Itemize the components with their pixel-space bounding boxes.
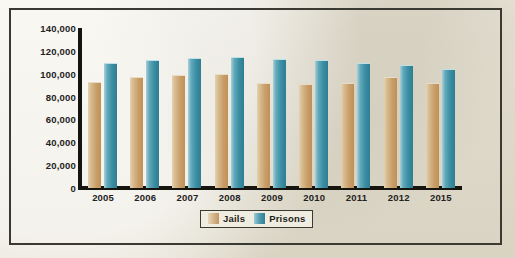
bar-jails-2007[interactable] bbox=[172, 75, 185, 188]
x-axis-tick-labels: 200520062007200820092010201120122015 bbox=[82, 192, 462, 208]
bar-face bbox=[146, 60, 159, 188]
y-axis-tick-labels: 140,000120,000100,00080,00060,00040,0002… bbox=[12, 0, 76, 258]
bar-face bbox=[130, 77, 143, 188]
bar-jails-2008[interactable] bbox=[215, 74, 228, 188]
bar-group bbox=[209, 28, 251, 188]
bar-jails-2010[interactable] bbox=[299, 84, 312, 188]
bar-group bbox=[166, 28, 208, 188]
chart-page: 140,000120,000100,00080,00060,00040,0002… bbox=[0, 0, 515, 258]
bar-prisons-2011[interactable] bbox=[357, 63, 370, 188]
x-axis-tick-label: 2006 bbox=[124, 192, 166, 203]
bar-face bbox=[299, 84, 312, 188]
prisons-swatch-icon bbox=[254, 213, 265, 224]
bar-jails-2011[interactable] bbox=[341, 83, 354, 188]
chart-container: 140,000120,000100,00080,00060,00040,0002… bbox=[0, 0, 515, 258]
x-axis-tick-label: 2012 bbox=[378, 192, 420, 203]
bar-jails-2006[interactable] bbox=[130, 77, 143, 188]
bar-face bbox=[315, 60, 328, 188]
bar-face bbox=[188, 58, 201, 188]
bar-face bbox=[273, 59, 286, 188]
x-axis-tick-label: 2010 bbox=[293, 192, 335, 203]
bar-group bbox=[251, 28, 293, 188]
bar-prisons-2008[interactable] bbox=[231, 57, 244, 188]
bar-prisons-2006[interactable] bbox=[146, 60, 159, 188]
bar-face bbox=[88, 82, 101, 188]
y-axis-tick-label: 60,000 bbox=[14, 114, 76, 125]
bar-group bbox=[378, 28, 420, 188]
bar-face bbox=[231, 57, 244, 188]
bar-face bbox=[341, 83, 354, 188]
x-axis-tick-label: 2009 bbox=[251, 192, 293, 203]
x-axis-tick-label: 2008 bbox=[209, 192, 251, 203]
y-axis-tick-label: 0 bbox=[14, 183, 76, 194]
legend-item-jails[interactable]: Jails bbox=[208, 213, 245, 224]
bar-group bbox=[82, 28, 124, 188]
x-axis-tick-label: 2015 bbox=[420, 192, 462, 203]
chart-legend: Jails Prisons bbox=[200, 210, 313, 228]
bar-group bbox=[335, 28, 377, 188]
y-axis-tick-label: 80,000 bbox=[14, 91, 76, 102]
y-axis-tick-label: 100,000 bbox=[14, 68, 76, 79]
x-axis-tick-label: 2005 bbox=[82, 192, 124, 203]
bar-face bbox=[257, 83, 270, 188]
bar-face bbox=[426, 83, 439, 188]
y-axis-tick-label: 20,000 bbox=[14, 160, 76, 171]
jails-swatch-icon bbox=[208, 213, 219, 224]
x-axis-tick-label: 2011 bbox=[335, 192, 377, 203]
bar-face bbox=[215, 74, 228, 188]
plot-area bbox=[82, 28, 462, 188]
x-axis-tick-label: 2007 bbox=[166, 192, 208, 203]
y-axis-tick-label: 140,000 bbox=[14, 23, 76, 34]
bar-face bbox=[442, 69, 455, 188]
bar-face bbox=[400, 65, 413, 188]
bar-jails-2015[interactable] bbox=[426, 83, 439, 188]
y-axis-tick-label: 40,000 bbox=[14, 137, 76, 148]
bar-face bbox=[384, 77, 397, 188]
bar-jails-2012[interactable] bbox=[384, 77, 397, 188]
bar-prisons-2012[interactable] bbox=[400, 65, 413, 188]
bar-prisons-2005[interactable] bbox=[104, 63, 117, 188]
bar-prisons-2009[interactable] bbox=[273, 59, 286, 188]
bar-prisons-2015[interactable] bbox=[442, 69, 455, 188]
bar-group bbox=[420, 28, 462, 188]
bar-face bbox=[357, 63, 370, 188]
bar-group bbox=[124, 28, 166, 188]
bar-face bbox=[104, 63, 117, 188]
bar-face bbox=[172, 75, 185, 188]
y-axis-tick-label: 120,000 bbox=[14, 45, 76, 56]
bar-prisons-2010[interactable] bbox=[315, 60, 328, 188]
bar-jails-2005[interactable] bbox=[88, 82, 101, 188]
bar-jails-2009[interactable] bbox=[257, 83, 270, 188]
legend-label-prisons: Prisons bbox=[269, 213, 305, 224]
bar-prisons-2007[interactable] bbox=[188, 58, 201, 188]
legend-item-prisons[interactable]: Prisons bbox=[254, 213, 305, 224]
bar-group bbox=[293, 28, 335, 188]
legend-label-jails: Jails bbox=[223, 213, 245, 224]
